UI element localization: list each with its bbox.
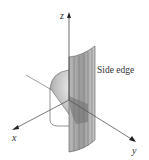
x-axis-arrow-icon	[12, 125, 19, 130]
surface-diagram: z x y Side edge	[0, 0, 149, 160]
y-axis-arrow-icon	[129, 136, 136, 142]
z-axis-arrow-icon	[67, 12, 71, 18]
x-axis	[16, 100, 69, 128]
side-edge-annotation: Side edge	[97, 65, 134, 75]
z-axis-label: z	[59, 10, 64, 21]
x-axis-label: x	[11, 132, 17, 143]
y-axis-label: y	[131, 145, 137, 156]
